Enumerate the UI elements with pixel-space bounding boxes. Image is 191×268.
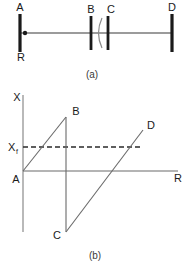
panel-b-y-axis-label: X [13,91,21,103]
threshold-label-subscript: f [16,148,18,155]
panel-a-label-d: D [168,1,176,13]
panel-b: X R X f A B C D (b) [8,91,182,261]
panel-a-label-c: C [107,3,115,15]
panel-b-label-d: D [147,119,155,131]
panel-a-label-a: A [16,1,24,13]
segment-c-to-d [66,130,143,232]
panel-a: A B C D R (a) [16,1,176,80]
two-panel-figure: A B C D R (a) X R X f [0,0,191,268]
panel-a-axis-label-r: R [17,51,25,63]
panel-a-label-b: B [87,3,94,15]
origin-dot [23,31,27,35]
panel-a-caption: (a) [86,69,98,80]
panel-b-label-c: C [53,229,61,241]
figure-root: A B C D R (a) X R X f [0,0,191,268]
threshold-label: X [8,141,16,153]
panel-b-x-axis-label: R [174,172,182,184]
panel-b-caption: (b) [89,250,101,261]
panel-b-label-b: B [72,105,79,117]
segment-a-to-b [23,117,66,171]
panel-b-label-a: A [12,173,20,185]
